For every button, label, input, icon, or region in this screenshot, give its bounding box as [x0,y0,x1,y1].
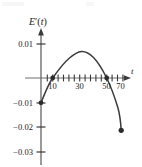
marker-first-zero [50,76,55,81]
x-tick-label-0: 10 [45,82,60,91]
y-tick-label-2: −0.02 [2,123,33,132]
marker-left-endpoint [39,100,44,105]
y-axis-title-argument-letter: t [41,16,44,27]
y-axis-title: E′(t) [29,17,47,27]
y-tick-label-1: −0.01 [2,99,33,108]
marker-second-zero [104,76,109,81]
y-axis-title-argument: (t) [37,16,46,27]
x-axis-minor-ticks [47,75,123,82]
x-tick-label-1: 30 [72,82,87,91]
marker-right-endpoint [119,128,124,133]
x-axis-title: t [131,67,134,76]
x-axis-arrowhead [124,75,131,80]
y-tick-label-0: 0.01 [6,40,33,49]
chart-figure: E′(t) t 0.01 −0.01 −0.02 −0.03 10 30 50 … [0,0,142,167]
y-tick-label-3: −0.03 [2,148,33,157]
x-tick-label-2: 50 [99,82,114,91]
y-axis-arrowhead [38,28,44,36]
x-tick-label-3: 70 [113,82,128,91]
